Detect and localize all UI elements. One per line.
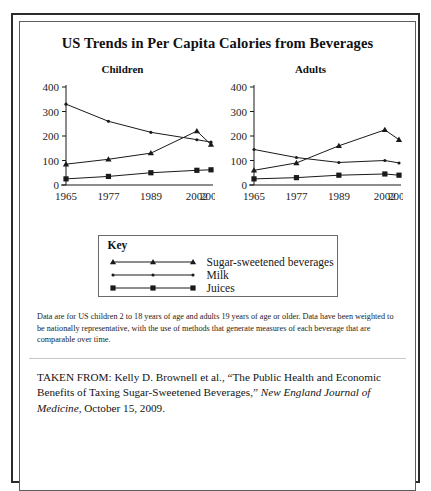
legend-entry: Juices [99,281,337,294]
chart-title-adults: Adults [218,63,403,75]
marker-square [63,176,68,181]
marker-dot [195,138,198,141]
series-line [66,131,211,164]
legend-key-box: Key Sugar-sweetened beveragesMilkJuices [98,235,338,297]
y-tick-label: 300 [43,106,60,118]
series-line [66,104,211,142]
plot-svg-children: 010020030040019651977198920022006 [30,81,215,217]
chart-panel-children: Children 0100200300400196519771989200220… [30,63,215,217]
legend-entry-label: Sugar-sweetened beverages [207,256,334,268]
legend-swatch-dot [110,269,196,281]
plot-children: 010020030040019651977198920022006 [30,81,215,217]
marker-dot [337,161,340,164]
legend-entry-label: Milk [207,269,229,281]
legend-heading: Key [108,239,128,251]
marker-dot [151,273,154,276]
marker-triangle [194,128,200,133]
figure-outer-border: US Trends in Per Capita Calories from Be… [11,13,420,483]
figure-source: TAKEN FROM: Kelly D. Brownell et al., “T… [37,370,398,417]
figure-inner-border: US Trends in Per Capita Calories from Be… [19,21,416,491]
x-tick-label: 2006 [388,190,403,202]
legend-swatch-square [110,282,196,294]
marker-dot [149,131,152,134]
marker-square [294,175,299,180]
legend-swatch-triangle [110,256,196,268]
y-tick-label: 300 [231,106,248,118]
charts-container: Children 0100200300400196519771989200220… [20,63,415,229]
x-tick-label: 2006 [200,190,215,202]
marker-square [194,168,199,173]
legend-entry: Milk [99,268,337,281]
source-tail: , October 15, 2009. [79,402,165,414]
marker-square [251,176,256,181]
legend-entry-label: Juices [207,282,235,294]
marker-triangle [396,137,402,142]
series-line [254,174,399,179]
series-line [254,149,399,162]
marker-triangle [148,150,154,155]
chart-title-children: Children [30,63,215,75]
x-tick-label: 1965 [55,190,78,202]
x-tick-label: 1977 [285,190,308,202]
marker-dot [64,103,67,106]
chart-panel-adults: Adults 010020030040019651977198920022006 [218,63,403,217]
legend-entry: Sugar-sweetened beverages [99,255,337,268]
y-tick-label: 400 [231,81,248,93]
series-line [254,130,399,170]
y-tick-label: 100 [43,155,60,167]
legend-entries: Sugar-sweetened beveragesMilkJuices [99,255,337,294]
figure-title: US Trends in Per Capita Calories from Be… [20,35,415,52]
marker-triangle [382,127,388,132]
marker-dot [383,159,386,162]
marker-dot [252,148,255,151]
x-tick-label: 1977 [97,190,120,202]
marker-square [148,170,153,175]
series-line [66,170,211,179]
marker-square [208,167,213,172]
figure-note: Data are for US children 2 to 18 years o… [37,311,398,346]
marker-dot [111,273,114,276]
marker-square [110,285,115,290]
y-tick-label: 200 [231,130,248,142]
y-tick-label: 100 [231,155,248,167]
marker-square [396,173,401,178]
plot-adults: 010020030040019651977198920022006 [218,81,403,217]
x-tick-label: 1989 [328,190,351,202]
plot-svg-adults: 010020030040019651977198920022006 [218,81,403,217]
marker-square [382,171,387,176]
marker-dot [107,120,110,123]
marker-square [190,285,195,290]
y-tick-label: 400 [43,81,60,93]
x-tick-label: 1965 [243,190,266,202]
marker-dot [295,156,298,159]
y-tick-label: 200 [43,130,60,142]
x-tick-label: 1989 [140,190,163,202]
marker-dot [397,161,400,164]
marker-square [106,174,111,179]
marker-square [336,173,341,178]
marker-square [150,285,155,290]
marker-dot [191,273,194,276]
section-divider [29,358,406,359]
